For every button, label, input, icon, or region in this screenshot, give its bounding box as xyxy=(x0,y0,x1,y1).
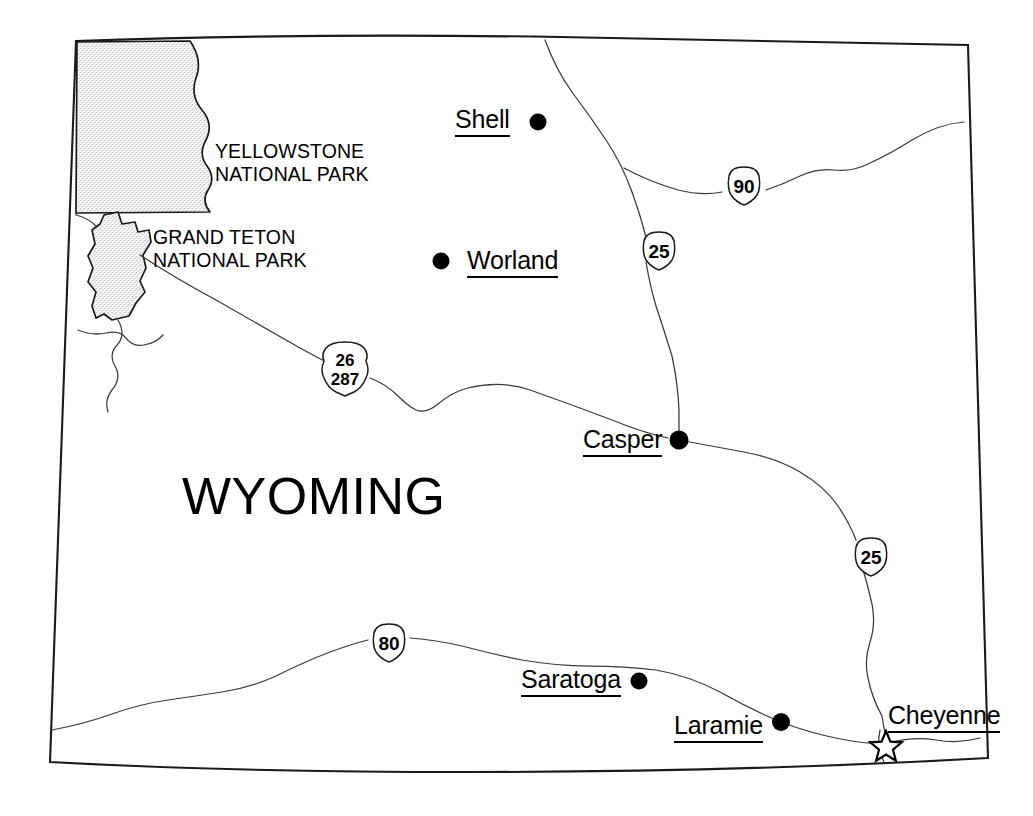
city-label-shell: Shell xyxy=(455,105,510,137)
park-label-grand-teton-line2: NATIONAL PARK xyxy=(153,249,307,272)
park-label-grand-teton-line1: GRAND TETON xyxy=(153,226,307,249)
shield-label-i80: 80 xyxy=(378,633,399,654)
map-canvas: 90 25 25 80 26 287 xyxy=(0,0,1033,816)
shield-label-us26: 26 xyxy=(336,351,355,370)
city-label-casper: Casper xyxy=(583,425,662,457)
park-label-yellowstone-line2: NATIONAL PARK xyxy=(215,163,369,186)
shield-label-i25-north: 25 xyxy=(648,241,670,262)
city-label-cheyenne: Cheyenne xyxy=(888,701,1000,733)
park-label-grand-teton: GRAND TETON NATIONAL PARK xyxy=(153,226,307,271)
shield-label-i25-south: 25 xyxy=(860,547,882,568)
city-dot-shell xyxy=(530,114,547,131)
city-dot-saratoga xyxy=(631,673,648,690)
park-label-yellowstone: YELLOWSTONE NATIONAL PARK xyxy=(215,140,369,185)
state-name-label: WYOMING xyxy=(182,466,445,526)
city-label-saratoga: Saratoga xyxy=(521,665,621,697)
city-label-laramie: Laramie xyxy=(674,711,763,743)
shield-label-us287: 287 xyxy=(331,370,359,389)
city-dot-casper xyxy=(670,431,689,450)
yellowstone-park-shape xyxy=(76,41,212,213)
park-label-yellowstone-line1: YELLOWSTONE xyxy=(215,140,369,163)
shield-label-i90: 90 xyxy=(733,176,754,197)
city-dot-worland xyxy=(433,253,450,270)
wyoming-map: 90 25 25 80 26 287 YELLOWSTONE NATIONAL … xyxy=(0,0,1033,816)
city-dot-laramie xyxy=(772,713,790,731)
city-label-worland: Worland xyxy=(467,246,558,278)
